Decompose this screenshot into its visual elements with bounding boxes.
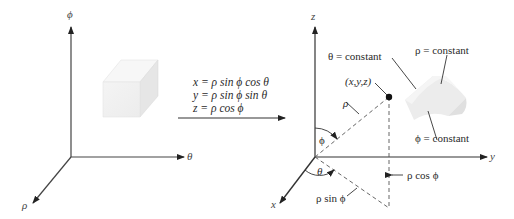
point-label: (x,y,z) — [345, 76, 371, 87]
equation-z: z = ρ cos ϕ — [193, 103, 244, 115]
rho-axis — [33, 157, 71, 203]
equation-x: x = ρ sin ϕ cos θ — [193, 77, 269, 89]
rho-sin-phi-label: ρ sin ϕ — [316, 193, 346, 204]
theta-axis-label: θ — [187, 151, 192, 162]
diagram-canvas — [0, 0, 514, 219]
theta-constant-label: θ = constant — [328, 51, 382, 62]
rho-cos-phi-label: ρ cos ϕ — [407, 170, 438, 181]
z-axis-label: z — [311, 11, 315, 22]
phi-angle-label: ϕ — [319, 135, 325, 146]
rectangular-box — [103, 60, 158, 117]
equation-y: y = ρ sin ϕ sin θ — [193, 90, 267, 102]
phi-constant-label: ϕ = constant — [415, 133, 469, 144]
rho-axis-label: ρ — [22, 200, 27, 211]
theta-angle-label: θ — [317, 166, 322, 177]
rho-constant-label: ρ = constant — [415, 45, 469, 56]
x-axis-label: x — [271, 199, 276, 210]
phi-axis-label: ϕ — [67, 9, 73, 20]
y-axis-label: y — [490, 151, 495, 162]
x-axis — [280, 157, 315, 203]
spherical-wedge — [405, 76, 467, 120]
rho-label: ρ — [343, 98, 348, 109]
